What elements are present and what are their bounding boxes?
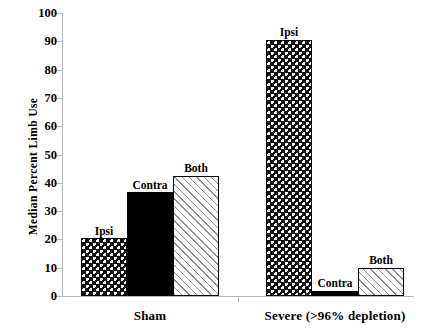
bar-chart-figure: Median Percent Limb Use 100 90 80 70 60 … (0, 0, 438, 333)
bar-label-sham-both: Both (184, 163, 208, 175)
y-tick-label: 0 (51, 289, 57, 304)
y-tick-label: 70 (45, 90, 58, 105)
y-tick-label: 10 (45, 260, 58, 275)
bar-label-severe-both: Both (369, 255, 393, 267)
y-axis-title: Median Percent Limb Use (22, 0, 44, 333)
bar-label-severe-contra: Contra (317, 278, 352, 290)
y-axis-line (62, 13, 63, 296)
bar-severe-contra[interactable]: Contra (312, 291, 358, 296)
plot-area: 100 90 80 70 60 50 40 30 (62, 13, 414, 296)
y-tick-label: 30 (45, 204, 58, 219)
y-tick-label: 40 (45, 175, 58, 190)
bar-label-sham-ipsi: Ipsi (95, 226, 114, 238)
bar-sham-both[interactable]: Both (173, 176, 219, 296)
y-tick-label: 60 (45, 119, 58, 134)
bar-label-severe-ipsi: Ipsi (280, 27, 299, 39)
x-axis-mid-tick (238, 296, 239, 302)
bar-severe-ipsi[interactable]: Ipsi (266, 40, 312, 296)
bar-sham-ipsi[interactable]: Ipsi (81, 238, 127, 296)
group-label-sham: Sham (134, 308, 167, 324)
y-tick-label: 50 (45, 147, 58, 162)
y-tick-label: 20 (45, 232, 58, 247)
y-tick-label: 90 (45, 34, 58, 49)
group-label-severe: Severe (>96% depletion) (264, 308, 405, 324)
y-tick-label: 80 (45, 62, 58, 77)
bar-label-sham-contra: Contra (132, 180, 167, 192)
y-tick-label: 100 (38, 6, 57, 21)
bar-severe-both[interactable]: Both (358, 268, 404, 296)
bar-sham-contra[interactable]: Contra (127, 192, 173, 296)
